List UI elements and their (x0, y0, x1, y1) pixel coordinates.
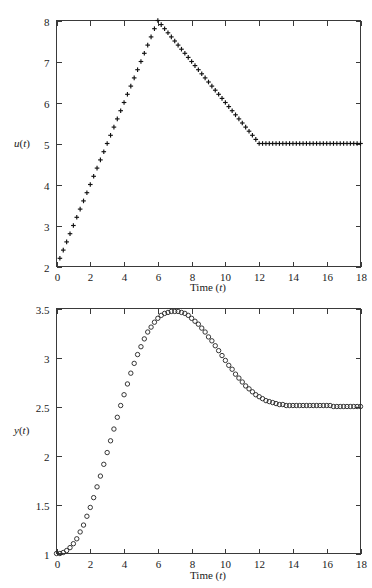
data-point-marker (152, 320, 156, 324)
data-point-marker (199, 72, 204, 77)
y-tick-label: 3 (44, 221, 50, 233)
x-tick-label: 12 (254, 271, 265, 283)
y-tick-label: 4 (44, 180, 50, 192)
y-tick-label: 3 (44, 353, 50, 365)
y-tick-label: 2 (44, 451, 50, 463)
data-point-marker (203, 330, 207, 334)
y-tick-label: 2.5 (36, 402, 50, 414)
data-markers-u (58, 18, 363, 260)
data-point-marker (71, 223, 76, 228)
data-point-marker (78, 207, 83, 212)
y-tick-labels-y: 11.522.533.5 (36, 304, 50, 561)
x-tick-label: 14 (288, 558, 300, 570)
data-point-marker (220, 353, 224, 357)
data-point-marker (105, 450, 109, 454)
x-tick-labels-y: 024681012141618 (55, 558, 368, 570)
data-point-marker (132, 361, 136, 365)
data-point-marker (233, 113, 238, 118)
data-point-marker (118, 403, 122, 407)
x-tick-label: 16 (322, 558, 334, 570)
x-tick-label: 2 (88, 271, 94, 283)
data-point-marker (213, 344, 217, 348)
x-tick-label: 18 (356, 558, 368, 570)
data-point-marker (240, 121, 245, 126)
data-point-marker (85, 190, 90, 195)
y-tick-label: 8 (44, 16, 50, 28)
data-point-marker (237, 117, 242, 122)
data-point-marker (139, 345, 143, 349)
data-point-marker (250, 133, 255, 138)
data-point-marker (88, 182, 93, 187)
data-point-marker (196, 322, 200, 326)
data-point-marker (68, 545, 72, 549)
data-point-marker (253, 137, 258, 142)
data-point-marker (91, 174, 96, 179)
data-point-marker (68, 231, 73, 236)
data-point-marker (223, 100, 228, 105)
data-point-marker (142, 337, 146, 341)
data-point-marker (226, 104, 231, 109)
data-point-marker (142, 51, 147, 56)
data-point-marker (220, 96, 225, 101)
x-tick-label: 16 (322, 271, 334, 283)
data-point-marker (240, 380, 244, 384)
panel-u-of-t: 024681012141618 2345678 Time (t) u(t) (0, 0, 372, 296)
data-point-marker (233, 372, 237, 376)
plot-svg-y: 024681012141618 11.522.533.5 Time (t) y(… (0, 294, 372, 588)
data-point-marker (176, 43, 181, 48)
x-tick-label: 4 (122, 271, 128, 283)
data-point-marker (149, 35, 154, 40)
data-point-marker (81, 523, 85, 527)
data-point-marker (75, 537, 79, 541)
x-tick-label: 8 (190, 558, 196, 570)
data-point-marker (172, 39, 177, 44)
data-point-marker (112, 427, 116, 431)
data-point-marker (169, 35, 174, 40)
data-point-marker (95, 166, 100, 171)
data-point-marker (162, 26, 167, 31)
y-tick-marks-u (57, 22, 361, 268)
x-tick-label: 10 (220, 558, 232, 570)
x-tick-label: 14 (288, 271, 300, 283)
y-tick-label: 3.5 (36, 304, 50, 316)
y-tick-label: 5 (44, 139, 50, 151)
data-point-marker (135, 352, 139, 356)
data-point-marker (247, 129, 252, 134)
data-point-marker (213, 88, 218, 93)
data-point-marker (216, 92, 221, 97)
data-point-marker (179, 47, 184, 52)
data-point-marker (237, 376, 241, 380)
data-point-marker (91, 495, 95, 499)
data-point-marker (115, 415, 119, 419)
data-point-marker (112, 125, 117, 130)
x-tick-label: 18 (356, 271, 368, 283)
data-point-marker (115, 117, 120, 122)
data-point-marker (149, 325, 153, 329)
figure-two-panel-time-response: 024681012141618 2345678 Time (t) u(t) 02… (0, 0, 372, 588)
axes-frame-y (57, 309, 361, 554)
data-point-marker (101, 149, 106, 154)
data-point-marker (58, 256, 63, 261)
data-point-marker (122, 393, 126, 397)
x-tick-label: 6 (156, 271, 162, 283)
data-point-marker (152, 26, 157, 31)
x-tick-label: 0 (55, 271, 61, 283)
y-tick-label: 6 (44, 98, 50, 110)
data-point-marker (200, 326, 204, 330)
data-point-marker (122, 100, 127, 105)
y-tick-labels-u: 2345678 (44, 16, 50, 274)
data-point-marker (95, 485, 99, 489)
x-tick-label: 0 (55, 558, 61, 570)
data-point-marker (129, 371, 133, 375)
y-tick-marks-y (57, 310, 361, 555)
x-tick-label: 12 (254, 558, 265, 570)
data-point-marker (210, 84, 215, 89)
data-point-marker (227, 363, 231, 367)
data-markers-y (54, 309, 362, 555)
data-point-marker (216, 348, 220, 352)
panel-y-of-t: 024681012141618 11.522.533.5 Time (t) y(… (0, 294, 372, 588)
data-point-marker (132, 76, 137, 81)
plot-svg-u: 024681012141618 2345678 Time (t) u(t) (0, 0, 372, 296)
y-tick-label: 2 (44, 262, 50, 274)
x-tick-label: 6 (156, 558, 162, 570)
